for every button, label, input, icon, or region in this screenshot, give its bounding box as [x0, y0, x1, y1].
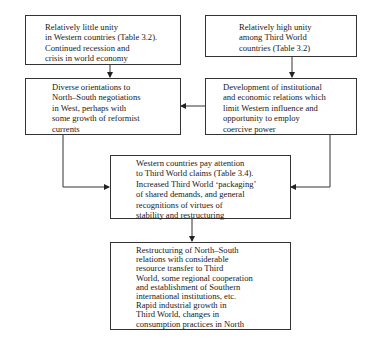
- box-third-world-unity: Relatively high unity among Third World …: [205, 15, 357, 57]
- box-diverse-orientations: Diverse orientations to North–South nego…: [25, 78, 181, 135]
- box-western-unity: Relatively little unity in Western count…: [25, 15, 181, 65]
- box-institutional-development-text: Development of institutional and economi…: [223, 82, 326, 134]
- box-western-unity-text: Relatively little unity in Western count…: [45, 22, 157, 64]
- arrow-institutional-to-attention: [291, 134, 330, 187]
- arrow-diverse-to-attention: [63, 134, 109, 187]
- box-western-attention-text: Western countries pay attention to Third…: [136, 158, 256, 220]
- box-diverse-orientations-text: Diverse orientations to North–South nego…: [52, 82, 141, 134]
- box-restructuring: Restructuring of North–South relations w…: [110, 242, 291, 330]
- box-western-attention: Western countries pay attention to Third…: [110, 155, 291, 219]
- box-third-world-unity-text: Relatively high unity among Third World …: [239, 22, 312, 53]
- box-restructuring-text: Restructuring of North–South relations w…: [136, 246, 253, 329]
- box-institutional-development: Development of institutional and economi…: [205, 78, 357, 135]
